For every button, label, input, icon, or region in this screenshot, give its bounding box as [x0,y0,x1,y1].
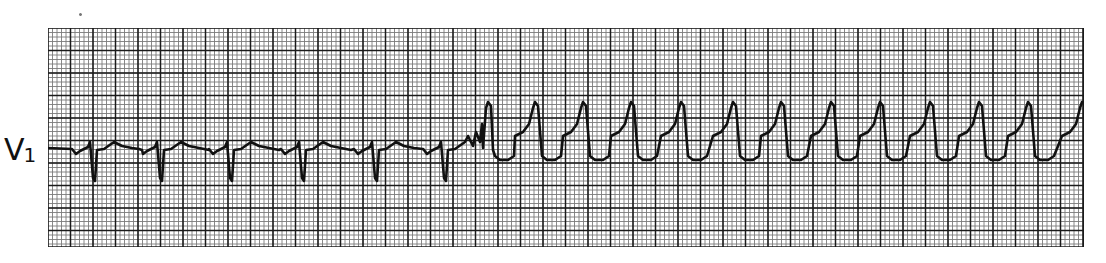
lead-number: 1 [24,143,36,167]
grid-major [48,28,1084,247]
ecg-chart [48,28,1084,247]
lead-label: V1 [4,132,35,167]
paper-speck [78,12,82,16]
lead-letter: V [4,132,24,167]
ecg-strip [48,28,1084,247]
